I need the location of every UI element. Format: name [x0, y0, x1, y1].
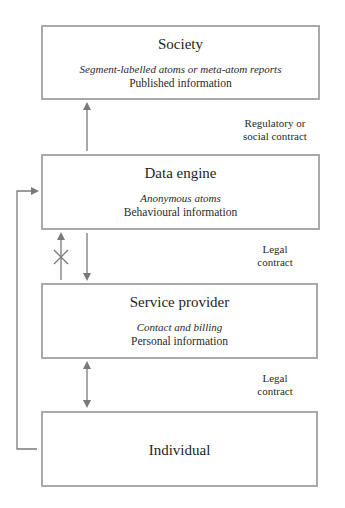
node-data-engine: Data engine Anonymous atoms Behavioural … [41, 154, 320, 230]
feedback-arrow-individual-to-data-engine [17, 191, 37, 449]
node-title: Individual [43, 441, 316, 459]
node-title: Data engine [43, 164, 318, 182]
edge-label-regulatory-contract: Regulatory or social contract [233, 117, 317, 143]
edge-label-legal-contract-2: Legal contract [250, 372, 300, 398]
node-description: Published information [43, 76, 318, 90]
node-subtitle: Contact and billing [43, 320, 316, 334]
edge-label-line: contract [250, 385, 300, 398]
node-service-provider: Service provider Contact and billing Per… [41, 283, 318, 359]
node-subtitle: Segment-labelled atoms or meta-atom repo… [43, 62, 318, 76]
node-description: Behavioural information [43, 205, 318, 219]
edge-label-line: Regulatory or [233, 117, 317, 130]
blocked-arrow-service-provider-to-data-engine [54, 236, 68, 280]
node-title: Society [43, 35, 318, 53]
node-description: Personal information [43, 334, 316, 348]
edge-label-line: Legal [250, 243, 300, 256]
node-subtitle: Anonymous atoms [43, 191, 318, 205]
node-title: Service provider [43, 293, 316, 311]
cross-icon [54, 250, 68, 264]
edge-label-line: social contract [233, 130, 317, 143]
edge-label-legal-contract-1: Legal contract [250, 243, 300, 269]
edge-label-line: Legal [250, 372, 300, 385]
edge-label-line: contract [250, 256, 300, 269]
node-individual: Individual [41, 411, 318, 487]
node-society: Society Segment-labelled atoms or meta-a… [41, 25, 320, 100]
